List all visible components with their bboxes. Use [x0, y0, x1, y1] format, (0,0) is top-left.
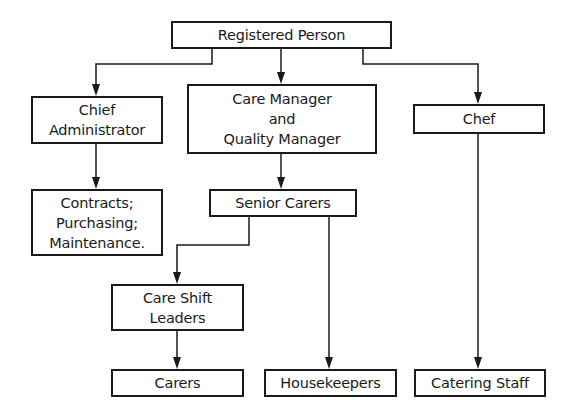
node-carers: Carers: [111, 369, 244, 397]
arrowhead-icon: [474, 92, 482, 104]
node-catering-staff: Catering Staff: [414, 369, 546, 397]
arrowhead-icon: [474, 357, 482, 369]
node-registered-person: Registered Person: [171, 21, 392, 49]
node-label: Maintenance.: [49, 233, 145, 253]
node-label: Care Shift: [143, 288, 212, 308]
node-label: Purchasing;: [56, 213, 138, 233]
node-label: Leaders: [150, 308, 206, 328]
node-label: Senior Carers: [235, 193, 330, 213]
arrowhead-icon: [173, 272, 181, 284]
node-label: Chief: [79, 100, 115, 120]
arrowhead-icon: [173, 357, 181, 369]
edge-senior-carers-to-care-shift: [177, 216, 249, 272]
arrowhead-icon: [277, 72, 285, 84]
node-label: Catering Staff: [431, 373, 529, 393]
node-label: Carers: [155, 373, 201, 393]
node-care-shift-leaders: Care Shift Leaders: [111, 284, 244, 331]
node-label: and: [269, 109, 296, 129]
arrowhead-icon: [325, 357, 333, 369]
node-label: Care Manager: [232, 89, 331, 109]
org-chart: Registered Person Chief Administrator Ca…: [0, 0, 573, 419]
node-label: Administrator: [49, 120, 145, 140]
arrowhead-icon: [277, 177, 285, 189]
node-label: Housekeepers: [280, 373, 380, 393]
node-contracts: Contracts; Purchasing; Maintenance.: [31, 189, 163, 256]
node-housekeepers: Housekeepers: [264, 369, 397, 397]
node-care-manager: Care Manager and Quality Manager: [187, 84, 377, 154]
node-senior-carers: Senior Carers: [209, 189, 357, 217]
node-label: Chef: [463, 109, 496, 129]
arrowhead-icon: [92, 84, 100, 96]
edge-registered-to-chief-admin: [96, 48, 212, 84]
node-chef: Chef: [413, 104, 545, 134]
node-label: Registered Person: [218, 25, 345, 45]
edge-registered-to-chef: [363, 48, 478, 92]
arrowhead-icon: [92, 177, 100, 189]
node-chief-administrator: Chief Administrator: [31, 96, 163, 144]
node-label: Quality Manager: [224, 129, 341, 149]
node-label: Contracts;: [61, 193, 134, 213]
